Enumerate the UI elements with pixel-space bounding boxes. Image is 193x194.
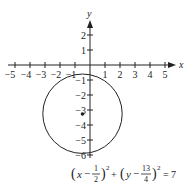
eq-frac2-num: 13 xyxy=(142,164,150,173)
y-axis-label: y xyxy=(86,8,92,19)
eq-exp-2: 2 xyxy=(157,164,161,172)
y-tick-label: −1 xyxy=(75,75,86,86)
x-tick-label: −5 xyxy=(5,69,16,80)
eq-equals: = xyxy=(163,169,169,180)
y-tick-label: −5 xyxy=(75,135,86,146)
y-tick-label: 1 xyxy=(81,45,86,56)
x-axis-label: x xyxy=(178,59,184,70)
eq-paren-open-2: ( xyxy=(120,166,125,182)
y-tick-label: 2 xyxy=(81,30,86,41)
x-tick-label: −2 xyxy=(51,69,62,80)
x-axis: x −5 −4 −3 −2 −1 1 2 3 4 5 xyxy=(5,59,184,80)
y-axis: y 2 1 −1 −2 −3 −4 −5 −6 xyxy=(75,8,93,161)
eq-frac2-den: 4 xyxy=(144,175,148,184)
x-tick-label: −4 xyxy=(21,69,32,80)
circle-graph: x −5 −4 −3 −2 −1 1 2 3 4 5 y xyxy=(0,0,193,194)
x-tick-label: 2 xyxy=(118,69,123,80)
y-tick-label: −6 xyxy=(75,150,86,161)
x-tick-label: 4 xyxy=(148,69,153,80)
y-tick-label: −3 xyxy=(75,105,86,116)
eq-minus-1: − xyxy=(84,167,90,179)
x-tick-label: 1 xyxy=(103,69,108,80)
y-axis-arrow-icon xyxy=(87,20,93,28)
eq-frac1-den: 2 xyxy=(94,175,98,184)
x-tick-label: 5 xyxy=(163,69,168,80)
eq-var-y: y xyxy=(125,168,131,180)
eq-plus: + xyxy=(111,169,117,180)
center-point xyxy=(81,112,85,116)
eq-frac1-num: 1 xyxy=(94,164,98,173)
x-tick-label: 3 xyxy=(133,69,138,80)
eq-var-x: x xyxy=(76,168,82,180)
y-tick-label: −2 xyxy=(75,90,86,101)
eq-paren-open-1: ( xyxy=(71,166,76,182)
eq-rhs: 7 xyxy=(171,169,176,180)
y-tick-label: −4 xyxy=(75,120,86,131)
x-tick-label: −3 xyxy=(36,69,47,80)
eq-exp-1: 2 xyxy=(106,164,110,172)
circle-equation: ( x − 1 2 ) 2 + ( y − 13 4 ) 2 = 7 xyxy=(71,164,176,184)
eq-minus-2: − xyxy=(133,167,139,179)
x-axis-arrow-icon xyxy=(168,62,176,68)
